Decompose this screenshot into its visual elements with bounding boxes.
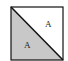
label-lower-left: A (24, 40, 31, 50)
diagram-canvas: A A (0, 0, 68, 61)
label-upper-right: A (45, 19, 52, 29)
